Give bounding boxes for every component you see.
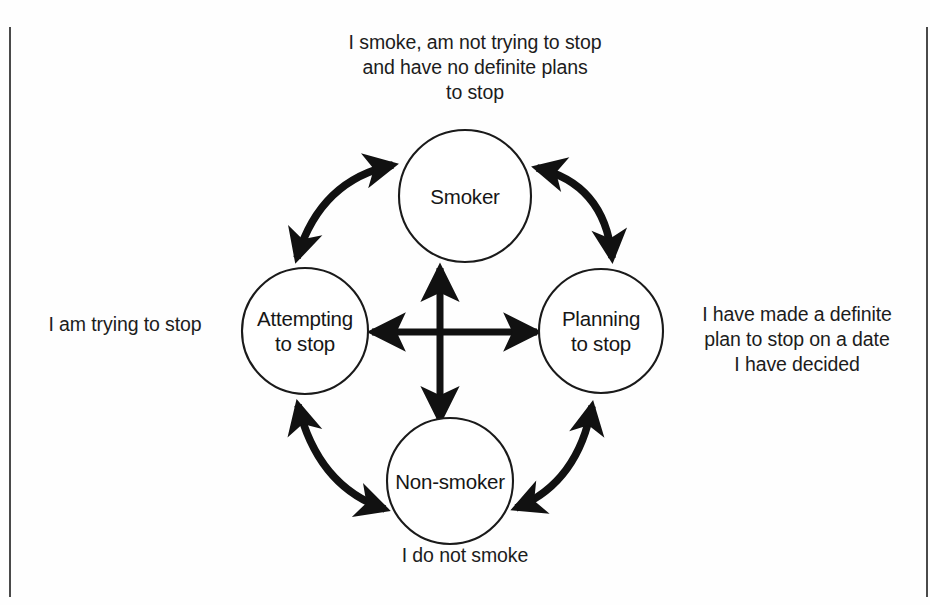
caption-nonsmoker: I do not smoke [300, 543, 630, 568]
caption-attempting: I am trying to stop [10, 312, 240, 337]
edge-attempting-nonsmoker [298, 405, 385, 509]
node-circle-attempting[interactable] [242, 268, 368, 394]
node-circle-planning[interactable] [539, 269, 663, 393]
edge-smoker-planning [537, 168, 612, 258]
node-circles-group [242, 130, 663, 544]
cross-edges-group [372, 268, 537, 420]
edge-smoker-attempting [297, 165, 393, 258]
diagram-page: Smoker Attempting to stop Planning to st… [0, 0, 930, 605]
caption-planning: I have made a definite plan to stop on a… [672, 302, 922, 377]
node-circle-smoker[interactable] [399, 130, 531, 262]
node-circle-nonsmoker[interactable] [387, 418, 513, 544]
caption-smoker: I smoke, am not trying to stop and have … [230, 30, 720, 105]
edge-planning-nonsmoker [516, 406, 592, 508]
